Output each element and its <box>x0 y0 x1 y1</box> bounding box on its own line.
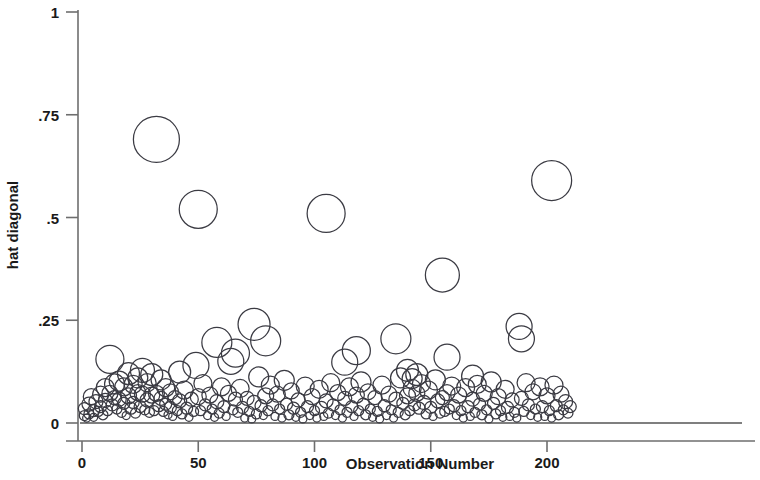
x-tick-label: 0 <box>78 454 86 471</box>
y-tick-label: .25 <box>38 312 59 329</box>
y-tick-label: .5 <box>46 210 59 227</box>
y-tick-label: 0 <box>51 415 59 432</box>
x-tick-label: 50 <box>190 454 207 471</box>
x-tick-label: 200 <box>534 454 559 471</box>
plot-canvas: 0.25.5.751 050100150200 hat diagonal Obs… <box>0 0 760 480</box>
y-axis-title: hat diagonal <box>4 181 21 269</box>
x-axis-title: Observation Number <box>346 455 495 472</box>
y-tick-label: 1 <box>51 4 59 21</box>
x-tick-label: 100 <box>302 454 327 471</box>
bubble-plot-figure: 0.25.5.751 050100150200 hat diagonal Obs… <box>0 0 760 480</box>
y-tick-label: .75 <box>38 107 59 124</box>
